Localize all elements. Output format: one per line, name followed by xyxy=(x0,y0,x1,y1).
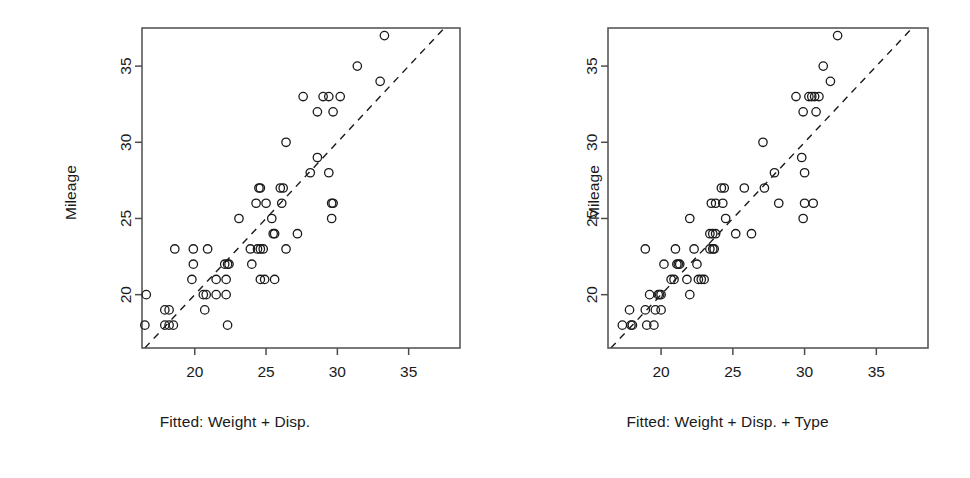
data-point-marker xyxy=(313,108,321,116)
data-point-marker xyxy=(683,275,691,283)
data-point-marker xyxy=(313,153,321,161)
data-point-marker xyxy=(732,230,740,238)
data-point-marker xyxy=(188,275,196,283)
data-point-marker xyxy=(660,260,668,268)
data-point-marker xyxy=(721,214,729,222)
data-point-marker xyxy=(800,169,808,177)
data-point-marker xyxy=(212,290,220,298)
data-point-marker xyxy=(798,153,806,161)
data-point-marker xyxy=(747,230,755,238)
data-point-marker xyxy=(618,321,626,329)
y-tick-label: 25 xyxy=(118,210,135,227)
data-point-marker xyxy=(693,260,701,268)
y-tick-label: 30 xyxy=(118,133,135,151)
data-points xyxy=(618,31,842,329)
data-point-marker xyxy=(325,92,333,100)
y-tick-label: 35 xyxy=(584,57,601,74)
data-point-marker xyxy=(800,199,808,207)
panel-left: 2025303520253035 Fitted: Weight + Disp. … xyxy=(0,0,485,478)
data-point-marker xyxy=(376,77,384,85)
x-tick-label: 25 xyxy=(257,363,274,380)
data-point-marker xyxy=(201,306,209,314)
data-point-marker xyxy=(686,290,694,298)
data-point-marker xyxy=(770,169,778,177)
data-point-marker xyxy=(189,245,197,253)
data-point-marker xyxy=(278,199,286,207)
data-point-marker xyxy=(142,290,150,298)
y-tick-label: 30 xyxy=(584,133,601,151)
data-point-marker xyxy=(833,31,841,39)
y-tick-label: 20 xyxy=(118,286,135,304)
x-tick-label: 20 xyxy=(186,363,204,380)
reference-line xyxy=(611,28,912,348)
data-point-marker xyxy=(641,245,649,253)
panel-right: 2025303520253035 Fitted: Weight + Disp. … xyxy=(485,0,970,478)
data-point-marker xyxy=(671,245,679,253)
reference-line xyxy=(145,28,444,348)
data-point-marker xyxy=(293,230,301,238)
data-point-marker xyxy=(353,62,361,70)
data-point-marker xyxy=(792,92,800,100)
data-point-marker xyxy=(329,108,337,116)
y-tick-label: 35 xyxy=(118,57,135,74)
plot-area-right: 2025303520253035 xyxy=(485,0,970,400)
data-point-marker xyxy=(203,245,211,253)
data-point-marker xyxy=(248,260,256,268)
data-point-marker xyxy=(325,169,333,177)
data-point-marker xyxy=(299,92,307,100)
x-tick-label: 25 xyxy=(724,363,741,380)
x-tick-label: 20 xyxy=(652,363,670,380)
x-tick-label: 30 xyxy=(796,363,814,380)
data-point-marker xyxy=(222,275,230,283)
data-point-marker xyxy=(282,138,290,146)
data-point-marker xyxy=(740,184,748,192)
scatter-plot-figure: 2025303520253035 Fitted: Weight + Disp. … xyxy=(0,0,970,478)
data-point-marker xyxy=(686,214,694,222)
x-axis-title-right: Fitted: Weight + Disp. + Type xyxy=(485,413,970,431)
data-point-marker xyxy=(775,199,783,207)
data-point-marker xyxy=(222,290,230,298)
data-point-marker xyxy=(306,169,314,177)
data-point-marker xyxy=(690,245,698,253)
data-point-marker xyxy=(171,245,179,253)
data-point-marker xyxy=(812,108,820,116)
y-axis-title-left: Mileage xyxy=(62,165,80,220)
data-point-marker xyxy=(819,62,827,70)
data-point-marker xyxy=(759,138,767,146)
data-points xyxy=(141,31,389,329)
data-point-marker xyxy=(380,31,388,39)
y-axis-title-right: Mileage xyxy=(585,165,603,220)
data-point-marker xyxy=(189,260,197,268)
x-axis-title-left: Fitted: Weight + Disp. xyxy=(0,413,470,431)
data-point-marker xyxy=(327,214,335,222)
data-point-marker xyxy=(235,214,243,222)
data-point-marker xyxy=(799,108,807,116)
x-tick-label: 35 xyxy=(868,363,885,380)
y-tick-label: 20 xyxy=(584,286,601,304)
x-tick-label: 30 xyxy=(329,363,347,380)
data-point-marker xyxy=(282,245,290,253)
data-point-marker xyxy=(826,77,834,85)
data-point-marker xyxy=(641,306,649,314)
data-point-marker xyxy=(212,275,220,283)
data-point-marker xyxy=(625,306,633,314)
data-point-marker xyxy=(252,199,260,207)
data-point-marker xyxy=(809,199,817,207)
data-point-marker xyxy=(262,199,270,207)
data-point-marker xyxy=(268,214,276,222)
data-point-marker xyxy=(799,214,807,222)
data-point-marker xyxy=(657,306,665,314)
data-point-marker xyxy=(645,290,653,298)
data-point-marker xyxy=(223,321,231,329)
data-point-marker xyxy=(270,275,278,283)
x-tick-label: 35 xyxy=(400,363,417,380)
data-point-marker xyxy=(336,92,344,100)
